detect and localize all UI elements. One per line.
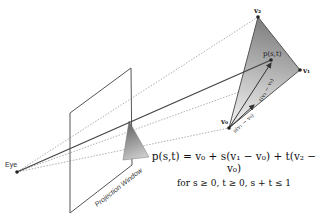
v0-point (227, 126, 231, 130)
v2-point (256, 15, 260, 19)
v1-point (298, 68, 302, 72)
projection-window (70, 68, 132, 213)
p-point (269, 58, 273, 62)
formula-block: p(s,t) = v₀ + s(v₁ − v₀) + t(v₂ − v₀) fo… (150, 150, 318, 188)
eye-label: Eye (5, 161, 17, 169)
constraint-text: for s ≥ 0, t ≥ 0, s + t ≤ 1 (150, 178, 318, 188)
p-label: p(s,t) (263, 50, 282, 58)
parametric-equation: p(s,t) = v₀ + s(v₁ − v₀) + t(v₂ − v₀) (150, 150, 318, 174)
v0-label: v₀ (220, 117, 228, 126)
v2-label: v₂ (253, 6, 261, 15)
projection-window-label: Projection Window (93, 166, 144, 209)
v1-label: v₁ (302, 66, 310, 75)
eye-point (15, 170, 19, 174)
projected-triangle (123, 121, 149, 160)
